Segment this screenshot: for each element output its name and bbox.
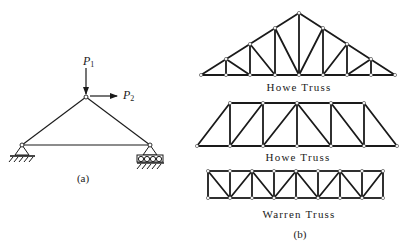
warren-truss: Warren Truss [206,169,384,220]
load-p2: P2 [90,88,134,103]
truss-label-warren: Warren Truss [262,208,335,220]
load-p2-subscript: 2 [130,94,134,103]
load-p1-subscript: 1 [90,60,94,69]
truss-members [22,97,150,145]
figure-a-simple-truss: P1 P2 (a) [9,54,164,185]
load-p1: P1 [82,54,94,94]
truss-label-howe-roof: Howe Truss [267,81,332,93]
howe-bridge-truss: Howe Truss [195,101,398,163]
svg-text:P1: P1 [82,54,94,69]
figure-b-caption: (b) [294,228,307,241]
roller-support-icon [137,145,164,169]
svg-text:P2: P2 [122,88,134,103]
truss-diagrams: P1 P2 (a) [0,0,407,247]
truss-label-howe-bridge: Howe Truss [266,151,331,163]
figure-a-caption: (a) [77,172,90,185]
howe-roof-truss: Howe Truss [199,11,396,93]
figure-b-truss-types: Howe Truss [195,11,398,241]
pin-support-icon [9,145,35,162]
